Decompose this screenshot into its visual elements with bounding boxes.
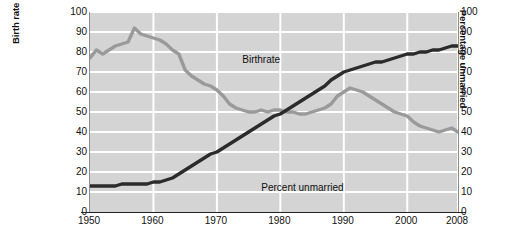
axis-tick-label: 20: [61, 166, 87, 178]
axis-tick-label: 10: [61, 186, 87, 198]
y-axis-title-right: Percentage unmarried: [456, 0, 469, 129]
x-axis-tick-label: 1990: [321, 215, 365, 226]
axis-tick-label: 10: [461, 186, 487, 198]
x-axis-tick-label: 1960: [130, 215, 174, 226]
plot-area: Birthrate Percent unmarried: [89, 12, 459, 212]
axis-tick-label: 40: [61, 126, 87, 138]
x-axis-tick-label: 1970: [194, 215, 238, 226]
axis-tick-label: 50: [61, 106, 87, 118]
series-label-birthrate: Birthrate: [242, 54, 280, 65]
x-axis-ticks: 1950196019701980199020002008: [0, 215, 510, 231]
axis-tick-label: 90: [61, 26, 87, 38]
series-label-percent-unmarried: Percent unmarried: [261, 182, 343, 193]
axis-tick-label: 100: [61, 6, 87, 18]
y-axis-title-left: Birth rate per 1,000 15- to 19-year-old …: [10, 0, 36, 44]
axis-tick-label: 30: [61, 146, 87, 158]
axis-tick-label: 80: [61, 46, 87, 58]
axis-tick-label: 20: [461, 166, 487, 178]
axis-tick-label: 60: [61, 86, 87, 98]
x-axis-tick-label: 2008: [435, 215, 479, 226]
x-axis-line: [81, 212, 466, 213]
x-axis-tick-label: 2000: [384, 215, 428, 226]
axis-tick-label: 30: [461, 146, 487, 158]
chart-figure: Birth rate per 1,000 15- to 19-year-old …: [0, 0, 510, 244]
x-axis-tick-label: 1950: [67, 215, 111, 226]
axis-tick-label: 70: [61, 66, 87, 78]
y-axis-ticks-left: 0102030405060708090100: [61, 12, 87, 212]
x-axis-tick-label: 1980: [257, 215, 301, 226]
